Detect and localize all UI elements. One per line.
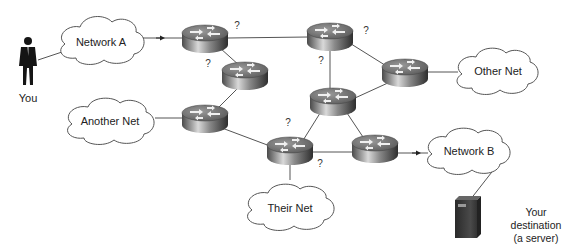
server-label: Your destination (a server) bbox=[508, 206, 564, 245]
cloud-label-other-net: Other Net bbox=[474, 65, 522, 77]
person-icon bbox=[19, 37, 37, 85]
router-icon bbox=[182, 25, 228, 53]
router-icon bbox=[352, 135, 398, 163]
router-icon bbox=[310, 88, 356, 116]
question-mark: ? bbox=[317, 158, 323, 169]
question-mark: ? bbox=[234, 20, 240, 31]
router-icon bbox=[382, 59, 428, 87]
question-mark: ? bbox=[318, 55, 324, 66]
cloud-label-another-net: Another Net bbox=[81, 115, 140, 127]
router-icon bbox=[222, 62, 268, 90]
cloud-label-network-a: Network A bbox=[76, 36, 126, 48]
server-icon bbox=[455, 196, 481, 238]
arrow-icon bbox=[160, 36, 165, 41]
arrow-icon bbox=[416, 151, 421, 156]
question-mark: ? bbox=[285, 117, 291, 128]
question-mark: ? bbox=[205, 58, 211, 69]
router-icon bbox=[307, 23, 353, 51]
server-label-line1: Your bbox=[508, 206, 564, 219]
router-icon bbox=[267, 137, 313, 165]
server-label-line3: (a server) bbox=[508, 232, 564, 245]
router-icon bbox=[182, 105, 228, 133]
cloud-label-their-net: Their Net bbox=[267, 202, 312, 214]
question-mark: ? bbox=[363, 25, 369, 36]
user-label: You bbox=[19, 92, 38, 104]
server-label-line2: destination bbox=[508, 219, 564, 232]
cloud-label-network-b: Network B bbox=[444, 145, 495, 157]
